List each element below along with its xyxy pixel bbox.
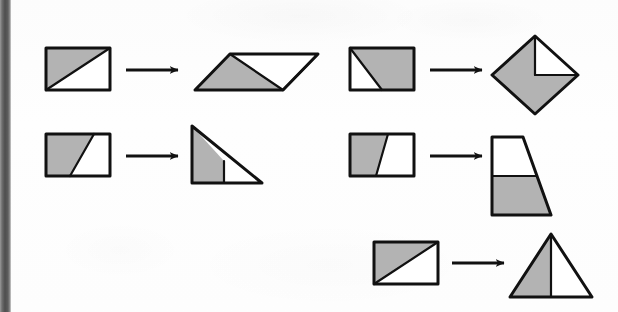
result-shape-rectangle-to-diamond: diamond with white triangle in upper-rig… bbox=[492, 36, 578, 114]
transformation-rectangle-to-trapezoid: rectangle with shaded trapezoid on the l… bbox=[350, 134, 551, 215]
transformation-rectangle-to-right-triangle: rectangle with shaded trapezoid at leftt… bbox=[46, 126, 262, 183]
transformation-rectangle-to-isosceles-triangle: rectangle with lower-left shaded triangl… bbox=[374, 234, 592, 297]
dissection-diagram: rectangle with lower-left shaded triangl… bbox=[0, 0, 618, 312]
source-shape-rectangle-to-right-triangle: rectangle with shaded trapezoid at left bbox=[46, 134, 110, 176]
transformation-rectangle-to-parallelogram: rectangle with lower-left shaded triangl… bbox=[46, 48, 318, 90]
figure-container: rectangle with lower-left shaded triangl… bbox=[0, 0, 618, 312]
result-shape-rectangle-to-right-triangle: right triangle with shaded left portion bbox=[192, 126, 262, 183]
source-shape-rectangle-to-trapezoid: rectangle with shaded trapezoid on the l… bbox=[350, 134, 414, 176]
source-shape-rectangle-to-diamond: rectangle with shaded region above diago… bbox=[350, 48, 414, 90]
result-shape-rectangle-to-parallelogram: parallelogram with shaded triangle on le… bbox=[195, 54, 318, 90]
source-shape-rectangle-to-parallelogram: rectangle with lower-left shaded triangl… bbox=[46, 48, 110, 90]
result-shape-rectangle-to-isosceles-triangle: isosceles triangle with shaded left half bbox=[510, 234, 592, 297]
transformation-rectangle-to-diamond: rectangle with shaded region above diago… bbox=[350, 36, 578, 114]
source-shape-rectangle-to-isosceles-triangle: rectangle with lower-left shaded triangl… bbox=[374, 242, 438, 284]
result-shape-rectangle-to-trapezoid: trapezoid with white top band and shaded… bbox=[492, 137, 551, 215]
result-shaded-region bbox=[492, 176, 551, 215]
